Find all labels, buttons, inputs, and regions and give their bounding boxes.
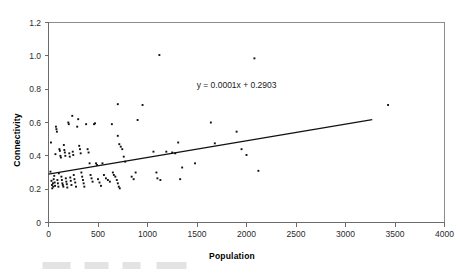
data-point bbox=[107, 179, 109, 181]
data-point bbox=[83, 182, 85, 184]
data-point bbox=[91, 177, 93, 179]
y-tick-label: 0.8 bbox=[29, 84, 41, 94]
data-point bbox=[113, 174, 115, 176]
data-point bbox=[80, 152, 82, 154]
data-point bbox=[387, 104, 389, 106]
data-point bbox=[69, 177, 71, 179]
data-point bbox=[76, 126, 78, 128]
y-axis-title: Connectivity bbox=[12, 113, 22, 166]
x-tick-label: 1500 bbox=[188, 229, 207, 239]
data-point bbox=[68, 123, 70, 125]
data-point bbox=[61, 182, 63, 184]
data-point bbox=[79, 148, 81, 150]
y-axis: 00.20.40.60.81.01.2 Connectivity bbox=[12, 18, 49, 228]
data-point bbox=[92, 181, 94, 183]
data-point bbox=[137, 119, 139, 121]
data-point bbox=[70, 180, 72, 182]
data-point bbox=[53, 175, 55, 177]
data-point bbox=[67, 122, 69, 124]
data-point bbox=[95, 162, 97, 164]
data-point bbox=[165, 151, 167, 153]
data-point bbox=[81, 176, 83, 178]
regression-line bbox=[49, 120, 373, 175]
data-point bbox=[194, 162, 196, 164]
data-point bbox=[55, 126, 57, 128]
y-tick-label: 1.2 bbox=[29, 18, 41, 28]
data-point bbox=[64, 155, 66, 157]
data-point bbox=[117, 103, 119, 105]
data-point bbox=[64, 152, 66, 154]
data-point bbox=[112, 172, 114, 174]
data-point bbox=[105, 177, 107, 179]
data-point bbox=[68, 152, 70, 154]
data-point bbox=[133, 178, 135, 180]
data-point bbox=[78, 145, 80, 147]
plot-frame bbox=[48, 23, 445, 223]
y-tick-label: 1.0 bbox=[29, 51, 41, 61]
chart-canvas: 00.20.40.60.81.01.2 Connectivity 0500100… bbox=[0, 0, 459, 274]
data-point bbox=[85, 123, 87, 125]
x-tick-label: 2500 bbox=[287, 229, 306, 239]
data-point bbox=[77, 118, 79, 120]
data-point bbox=[52, 186, 54, 188]
data-point bbox=[246, 154, 248, 156]
data-point bbox=[53, 178, 55, 180]
data-point bbox=[119, 187, 121, 189]
data-point bbox=[158, 54, 160, 56]
x-tick-label: 4000 bbox=[435, 229, 454, 239]
data-point bbox=[55, 128, 57, 130]
data-point bbox=[59, 150, 61, 152]
data-point bbox=[102, 162, 104, 164]
data-point bbox=[66, 183, 68, 185]
scatter-plot-figure: 00.20.40.60.81.01.2 Connectivity 0500100… bbox=[0, 0, 459, 274]
data-point bbox=[87, 148, 89, 150]
data-point bbox=[117, 182, 119, 184]
data-point bbox=[118, 143, 120, 145]
data-point bbox=[156, 177, 158, 179]
x-tick-label: 3500 bbox=[386, 229, 405, 239]
data-point bbox=[63, 149, 65, 151]
x-tick-group: 05001000150020002500300035004000 bbox=[46, 223, 454, 240]
y-tick-label: 0.4 bbox=[29, 151, 41, 161]
data-points-group bbox=[50, 54, 389, 189]
data-point bbox=[118, 186, 120, 188]
x-tick-label: 0 bbox=[46, 229, 51, 239]
x-tick-label: 3000 bbox=[336, 229, 355, 239]
data-point bbox=[65, 181, 67, 183]
data-point bbox=[58, 148, 60, 150]
data-point bbox=[59, 155, 61, 157]
data-point bbox=[181, 167, 183, 169]
data-point bbox=[257, 170, 259, 172]
data-point bbox=[50, 142, 52, 144]
regression-equation-label: y = 0.0001x + 0.2903 bbox=[197, 80, 277, 90]
x-tick-label: 500 bbox=[91, 229, 105, 239]
data-point bbox=[60, 176, 62, 178]
data-point bbox=[114, 176, 116, 178]
data-point bbox=[214, 142, 216, 144]
data-point bbox=[54, 153, 56, 155]
data-point bbox=[72, 151, 74, 153]
data-point bbox=[236, 131, 238, 133]
data-point bbox=[60, 157, 62, 159]
data-point bbox=[111, 123, 113, 125]
data-point bbox=[75, 186, 77, 188]
data-point bbox=[109, 181, 111, 183]
data-point bbox=[152, 151, 154, 153]
data-point bbox=[253, 57, 255, 59]
data-point bbox=[54, 182, 56, 184]
data-point bbox=[116, 179, 118, 181]
y-tick-label: 0 bbox=[36, 218, 41, 228]
data-point bbox=[155, 172, 157, 174]
x-tick-label: 2000 bbox=[237, 229, 256, 239]
data-point bbox=[54, 185, 56, 187]
data-point bbox=[62, 184, 64, 186]
data-point bbox=[63, 144, 65, 146]
data-point bbox=[71, 115, 73, 117]
data-point bbox=[56, 179, 58, 181]
data-point bbox=[73, 178, 75, 180]
data-point bbox=[73, 174, 75, 176]
data-point bbox=[131, 176, 133, 178]
y-tick-group: 00.20.40.60.81.01.2 bbox=[29, 18, 48, 228]
data-point bbox=[117, 135, 119, 137]
data-point bbox=[99, 182, 101, 184]
